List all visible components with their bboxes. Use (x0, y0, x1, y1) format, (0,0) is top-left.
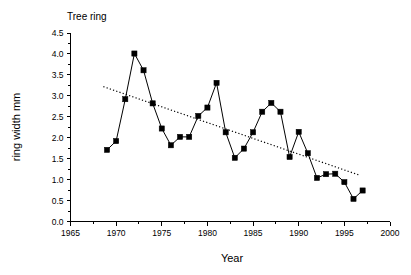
x-axis-title-group: Year (221, 252, 244, 264)
data-point-1972 (132, 51, 137, 56)
y-tick-label-1.0: 1.0 (52, 175, 64, 185)
x-tick-label-1995: 1995 (335, 228, 354, 238)
data-point-1992 (314, 175, 319, 180)
y-tick-label-4.0: 4.0 (52, 49, 64, 59)
x-tick-label-1980: 1980 (198, 228, 217, 238)
y-axis-ticks: 0.00.51.01.52.02.53.03.54.04.5 (52, 28, 71, 227)
axes (71, 33, 391, 222)
data-point-1971 (123, 97, 128, 102)
x-axis-title: Year (221, 252, 244, 264)
data-point-1991 (305, 151, 310, 156)
plot-title-group: Tree ring (67, 11, 107, 22)
data-point-1988 (278, 109, 283, 114)
series-line-ring-width (107, 54, 363, 199)
tree-ring-line-chart: Tree ring 0.00.51.01.52.02.53.03.54.04.5… (0, 0, 411, 275)
data-point-1997 (360, 188, 365, 193)
data-point-1969 (104, 147, 109, 152)
x-tick-label-2000: 2000 (381, 228, 400, 238)
y-axis-title: ring width mm (10, 93, 22, 161)
x-tick-label-1965: 1965 (61, 228, 80, 238)
data-point-1984 (241, 146, 246, 151)
data-point-1979 (196, 113, 201, 118)
data-point-1990 (296, 129, 301, 134)
y-tick-label-4.5: 4.5 (52, 28, 64, 38)
y-tick-label-1.5: 1.5 (52, 154, 64, 164)
y-axis-title-group: ring width mm (10, 93, 22, 161)
data-point-1970 (114, 138, 119, 143)
data-point-1982 (223, 130, 228, 135)
y-tick-label-2.5: 2.5 (52, 112, 64, 122)
data-point-1986 (260, 109, 265, 114)
data-point-1983 (232, 155, 237, 160)
data-point-1980 (205, 105, 210, 110)
data-point-1987 (269, 100, 274, 105)
y-tick-label-3.0: 3.0 (52, 91, 64, 101)
data-point-1977 (177, 134, 182, 139)
data-point-1995 (342, 180, 347, 185)
data-point-1994 (333, 171, 338, 176)
series-markers-ring-width (104, 51, 365, 202)
chart-figure: Tree ring 0.00.51.01.52.02.53.03.54.04.5… (0, 0, 411, 275)
data-point-1985 (250, 130, 255, 135)
data-point-1975 (159, 126, 164, 131)
data-point-1989 (287, 154, 292, 159)
x-tick-label-1970: 1970 (107, 228, 126, 238)
data-point-1981 (214, 80, 219, 85)
x-tick-label-1990: 1990 (289, 228, 308, 238)
y-tick-label-3.5: 3.5 (52, 70, 64, 80)
y-tick-label-0.5: 0.5 (52, 196, 64, 206)
data-point-1976 (168, 143, 173, 148)
x-tick-label-1985: 1985 (244, 228, 263, 238)
data-point-1993 (324, 172, 329, 177)
x-tick-label-1975: 1975 (152, 228, 171, 238)
data-point-1996 (351, 196, 356, 201)
data-point-1974 (150, 101, 155, 106)
y-tick-label-0.0: 0.0 (52, 217, 64, 227)
plot-title: Tree ring (67, 11, 107, 22)
data-point-1978 (187, 134, 192, 139)
y-tick-label-2.0: 2.0 (52, 133, 64, 143)
data-point-1973 (141, 68, 146, 73)
trend-line (103, 87, 359, 175)
